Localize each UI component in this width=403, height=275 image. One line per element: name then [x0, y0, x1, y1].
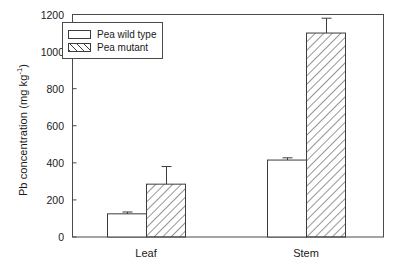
legend-label-wild-type: Pea wild type: [97, 29, 156, 40]
y-tick-label: 0: [26, 231, 64, 243]
y-tick-label: 400: [26, 157, 64, 169]
y-tick-label: 1000: [26, 46, 64, 58]
legend-label-mutant: Pea mutant: [97, 42, 148, 53]
y-tick-label: 800: [26, 83, 64, 95]
y-tick-label: 1200: [26, 9, 64, 21]
x-tick-label-leaf: Leaf: [135, 247, 156, 259]
y-tick-label: 600: [26, 120, 64, 132]
y-tick-label: 200: [26, 194, 64, 206]
legend-item-wild-type: Pea wild type: [68, 28, 156, 40]
bar-stem-wild-type: [268, 160, 307, 237]
legend: Pea wild type Pea mutant: [62, 22, 163, 59]
legend-swatch-white-icon: [68, 30, 91, 39]
bars-layer: [108, 33, 346, 237]
bar-leaf-wild-type: [108, 214, 147, 237]
bar-leaf-mutant: [147, 184, 186, 237]
legend-item-mutant: Pea mutant: [68, 41, 156, 53]
x-tick-label-stem: Stem: [293, 247, 319, 259]
bar-chart-figure: Pb concentration (mg kg-1) 0200400600800…: [0, 0, 403, 275]
bar-stem-mutant: [307, 33, 346, 237]
legend-swatch-hatched-icon: [68, 43, 91, 52]
